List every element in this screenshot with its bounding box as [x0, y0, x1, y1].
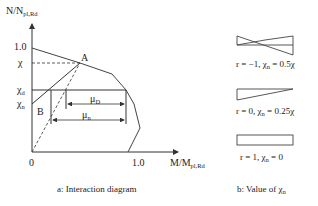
interaction-diagram-graphics: [0, 0, 318, 206]
y-tick-chi-d: χd: [17, 85, 25, 97]
case-r-1-label: r = 1, χn = 0: [240, 153, 283, 164]
stress-shape-r-1: [237, 135, 293, 145]
interaction-curve: [32, 48, 140, 152]
point-b-label: B: [37, 107, 44, 117]
y-tick-chi-n: χn: [17, 99, 25, 111]
mu-n-label: μn: [82, 110, 91, 122]
mu-d-label: μD: [90, 94, 100, 106]
x-tick-0: 0: [29, 158, 34, 168]
chi-n-to-a-line: [32, 63, 80, 104]
x-tick-1: 1.0: [132, 158, 145, 168]
caption-a: a: Interaction diagram: [57, 184, 136, 194]
y-tick-1: 1.0: [14, 42, 27, 52]
y-tick-chi: χ: [18, 58, 22, 68]
point-a-label: A: [81, 53, 88, 63]
case-r-minus-1-label: r = −1, χn = 0.5χ: [236, 60, 295, 71]
y-axis-label: N/Npl,Rd: [6, 6, 38, 18]
caption-b: b: Value of χn: [237, 184, 286, 195]
stress-shape-r-0: [237, 89, 293, 100]
stress-shape-r-minus-1: [237, 36, 293, 55]
x-axis-label: M/Mpl,Rd: [170, 158, 205, 170]
case-r-0-label: r = 0, χn = 0.25χ: [236, 107, 294, 118]
